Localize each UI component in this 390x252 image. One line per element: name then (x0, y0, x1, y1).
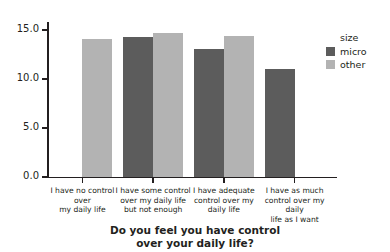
x-axis-title: Do you feel you have control over your d… (0, 224, 390, 250)
x-category-label-4: I have as muchcontrol over my dailylife … (255, 186, 334, 224)
x-category-label-2-line-3: but not enough (114, 205, 193, 215)
x-category-label-4-line-2: control over my daily (255, 196, 334, 215)
bar-micro-group-3[interactable] (194, 49, 224, 177)
x-category-label-4-line-3: life as I want (255, 215, 334, 225)
x-category-label-3-line-1: I have adequate (185, 186, 264, 196)
x-tick-mark-1 (82, 178, 84, 183)
plot-area (47, 22, 330, 177)
x-category-label-4-line-1: I have as much (255, 186, 334, 196)
legend-item-other[interactable]: other (326, 59, 367, 70)
legend-swatch-other (326, 60, 335, 69)
bar-other-group-1[interactable] (82, 39, 112, 177)
x-category-label-1: I have no control overmy daily life (43, 186, 122, 215)
x-category-label-2: I have some controlover my daily lifebut… (114, 186, 193, 215)
x-axis-title-line-1: Do you feel you have control (0, 224, 390, 237)
x-category-label-3-line-2: control over my (185, 196, 264, 206)
bar-micro-group-4[interactable] (265, 69, 295, 177)
bar-other-group-2[interactable] (153, 33, 183, 177)
x-tick-mark-3 (223, 178, 225, 183)
cropped-title-strip (0, 0, 390, 8)
x-category-label-1-line-1: I have no control over (43, 186, 122, 205)
x-category-label-1-line-2: my daily life (43, 205, 122, 215)
y-tick-label-2: 10.0 (17, 72, 39, 83)
legend-swatch-micro (326, 47, 335, 56)
legend-item-micro[interactable]: micro (326, 46, 367, 57)
y-tick-label-1: 5.0 (23, 121, 39, 132)
x-category-label-2-line-2: over my daily life (114, 196, 193, 206)
legend-label-other: other (340, 59, 365, 70)
legend-title: size (340, 32, 367, 43)
y-tick-label-3: 15.0 (17, 23, 39, 34)
x-tick-mark-2 (152, 178, 154, 183)
x-category-label-3: I have adequatecontrol over mydaily life (185, 186, 264, 215)
legend-label-micro: micro (340, 46, 367, 57)
x-category-label-2-line-1: I have some control (114, 186, 193, 196)
x-axis-title-line-2: over your daily life? (0, 237, 390, 250)
x-tick-mark-4 (294, 178, 296, 183)
legend: size micro other (326, 32, 367, 72)
y-tick-label-0: 0.0 (23, 170, 39, 181)
bar-micro-group-2[interactable] (123, 37, 153, 177)
x-category-label-3-line-3: daily life (185, 205, 264, 215)
bar-other-group-3[interactable] (224, 36, 254, 177)
bar-chart: 0.05.010.015.0 Mean Hour £ I have no con… (0, 0, 390, 252)
